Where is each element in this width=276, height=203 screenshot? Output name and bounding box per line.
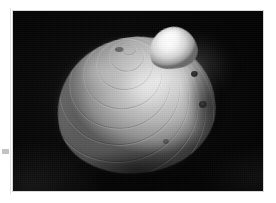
shell-boring-mark xyxy=(199,101,207,108)
shell-boring-mark xyxy=(115,47,124,52)
bivalve-shell-photograph: Grayscale photograph of a bivalve clam s… xyxy=(13,11,263,191)
shell-boring-mark xyxy=(163,139,169,144)
shell-shadow-bottom xyxy=(67,119,207,181)
margin-rule-line xyxy=(10,8,11,194)
shell-highlight-secondary xyxy=(73,51,127,101)
page-canvas: Grayscale photograph of a bivalve clam s… xyxy=(0,0,276,203)
shell-specimen xyxy=(13,11,263,191)
shell-boring-mark xyxy=(191,71,198,77)
margin-speck xyxy=(2,149,9,154)
